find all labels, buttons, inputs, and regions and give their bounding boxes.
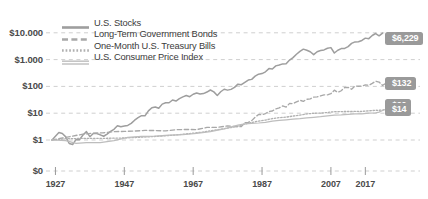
series-end-label-1: $132 bbox=[385, 77, 416, 90]
x-axis-tick-label: 2017 bbox=[340, 179, 390, 189]
legend-label-long-term-government-bonds: Long-Term Government Bonds bbox=[94, 29, 217, 39]
legend-item-long-term-government-bonds[interactable]: Long-Term Government Bonds bbox=[62, 29, 217, 41]
legend-swatch-one-month-us-treasury-bills bbox=[62, 41, 89, 50]
y-axis-tick-label: $0 bbox=[33, 165, 43, 176]
y-axis-tick-label: $10 bbox=[27, 107, 43, 118]
x-axis-tick-label: 1967 bbox=[168, 179, 218, 189]
series-line-3 bbox=[52, 109, 386, 143]
x-axis-tick-label: 1927 bbox=[30, 179, 80, 189]
y-axis-tick-label: $10.000 bbox=[9, 27, 43, 38]
series-end-label-0: $6,229 bbox=[385, 32, 423, 45]
legend-item-us-consumer-price-index[interactable]: U.S. Consumer Price Index bbox=[62, 52, 217, 64]
growth-of-dollar-chart: $10.000$1.000$100$10$1$0 192719471967198… bbox=[0, 0, 428, 199]
legend-item-one-month-us-treasury-bills[interactable]: One-Month U.S. Treasury Bills bbox=[62, 40, 217, 52]
series-end-label-3: $14 bbox=[385, 103, 411, 116]
chart-legend: U.S. Stocks Long-Term Government Bonds O… bbox=[62, 17, 217, 63]
x-axis-tick-label: 1987 bbox=[237, 179, 287, 189]
legend-item-us-stocks[interactable]: U.S. Stocks bbox=[62, 17, 217, 29]
series-line-1 bbox=[52, 81, 386, 140]
legend-label-us-stocks: U.S. Stocks bbox=[94, 18, 141, 28]
y-axis-tick-label: $1 bbox=[33, 134, 43, 145]
y-axis-tick-label: $1.000 bbox=[15, 54, 43, 65]
legend-label-us-consumer-price-index: U.S. Consumer Price Index bbox=[94, 52, 203, 62]
x-axis-tick-label: 1947 bbox=[99, 179, 149, 189]
legend-swatch-long-term-government-bonds bbox=[62, 30, 89, 39]
legend-label-one-month-us-treasury-bills: One-Month U.S. Treasury Bills bbox=[94, 41, 215, 51]
y-axis-tick-label: $100 bbox=[22, 80, 43, 91]
legend-swatch-us-stocks bbox=[62, 18, 89, 27]
legend-swatch-us-consumer-price-index bbox=[62, 53, 89, 62]
